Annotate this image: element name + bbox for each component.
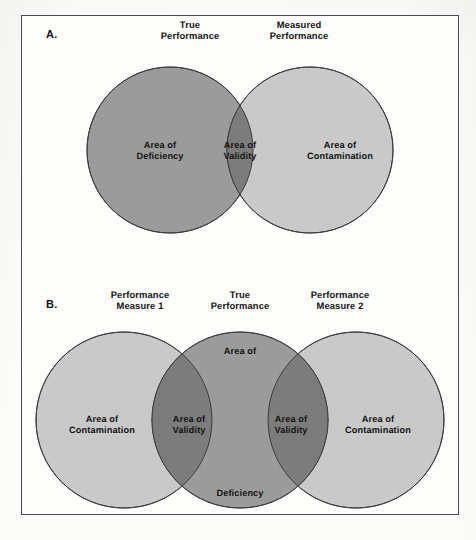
label-area-of-deficiency: Area of Deficiency (136, 140, 183, 163)
label-true-performance: True Performance (161, 19, 220, 42)
label-area-of-validity-left: Area of Validity (172, 414, 205, 437)
label-true-performance-b: True Performance (211, 289, 270, 312)
label-area-of-contamination: Area of Contamination (307, 140, 373, 163)
label-area-of-contamination-right: Area of Contamination (345, 414, 411, 437)
label-performance-measure-2: Performance Measure 2 (311, 289, 370, 312)
label-area-of-validity: Area of Validity (223, 140, 256, 163)
label-performance-measure-1: Performance Measure 1 (111, 289, 170, 312)
label-measured-performance: Measured Performance (270, 19, 329, 42)
label-area-of-deficiency-top: Area of (224, 346, 257, 357)
label-area-of-contamination-left: Area of Contamination (69, 414, 135, 437)
label-area-of-validity-right: Area of Validity (274, 414, 307, 437)
panel-a-venn (0, 0, 476, 270)
figure-container: A. True Performance Measured Performance… (0, 0, 476, 540)
label-area-of-deficiency-bottom: Deficiency (216, 488, 263, 499)
